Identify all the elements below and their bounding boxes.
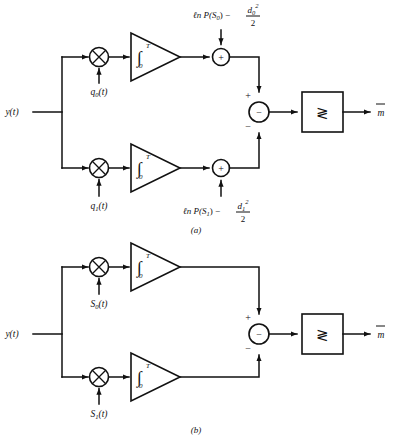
comparator-b: ≷ [302, 314, 370, 354]
bias-denominator-a-0: 2 [251, 18, 256, 28]
subtractor-inner-sign-a: − [256, 107, 262, 118]
svg-text:ℓn P(S0) −: ℓn P(S0) − [193, 10, 230, 21]
svg-text:m: m [378, 108, 385, 118]
comparator-symbol-b: ≷ [316, 327, 329, 343]
integral-lower-limit-a-1: 0 [139, 173, 143, 181]
subfigure-a: y(t) q0(t) ∫ T 0 [4, 2, 385, 235]
comparator-symbol-a: ≷ [316, 105, 329, 121]
subtractor-minus-sign-b: − [245, 343, 251, 354]
branch-b-1: S1(t) ∫ T 0 [90, 353, 260, 420]
block-diagram-canvas: y(t) q0(t) ∫ T 0 [0, 0, 393, 443]
subtractor-a: − + − [245, 90, 297, 132]
integral-lower-limit-a-0: 0 [139, 62, 143, 70]
reference-label-b-1: S1(t) [91, 409, 108, 420]
reference-label-a-0: q0(t) [91, 87, 108, 98]
bias-label-a-1: ℓn P(S1) − d12 2 [183, 198, 250, 224]
figure-root: y(t) q0(t) ∫ T 0 [0, 0, 393, 443]
subtractor-b: − + − [245, 312, 297, 354]
branch-b-0: S0(t) ∫ T 0 [90, 243, 260, 314]
reference-label-b-0: S0(t) [91, 299, 108, 310]
bias-numerator-a-0: d02 [248, 2, 260, 16]
svg-text:ℓn P(S1) −: ℓn P(S1) − [183, 206, 220, 217]
bias-numerator-a-1: d12 [238, 198, 250, 212]
bias-label-a-0: ℓn P(S0) − d02 2 [193, 2, 260, 28]
reference-label-a-1: q1(t) [91, 201, 108, 212]
output-label-b: m [376, 326, 385, 340]
integral-lower-limit-b-1: 0 [139, 382, 143, 390]
subtractor-plus-sign-b: + [245, 312, 251, 323]
branch-a-0: q0(t) ∫ T 0 + [90, 30, 260, 98]
adder-sign-a-1: + [218, 163, 224, 174]
input-wire-a [33, 57, 88, 168]
integral-lower-limit-b-0: 0 [139, 272, 143, 280]
subfigure-caption-b: (b) [191, 425, 202, 435]
subfigure-caption-a: (a) [191, 225, 202, 235]
subfigure-b: y(t) S0(t) ∫ T 0 [4, 243, 385, 435]
output-label-a: m [376, 104, 385, 118]
subtractor-minus-sign-a: − [245, 121, 251, 132]
subtractor-inner-sign-b: − [256, 329, 262, 340]
input-label-b: y(t) [4, 329, 18, 340]
input-wire-b [33, 267, 88, 377]
branch-a-1: q1(t) ∫ T 0 + [90, 133, 260, 212]
bias-denominator-a-1: 2 [241, 214, 246, 224]
input-label-a: y(t) [4, 107, 18, 118]
comparator-a: ≷ [302, 92, 370, 132]
adder-sign-a-0: + [218, 52, 224, 63]
subtractor-plus-sign-a: + [245, 90, 251, 101]
svg-text:m: m [378, 330, 385, 340]
